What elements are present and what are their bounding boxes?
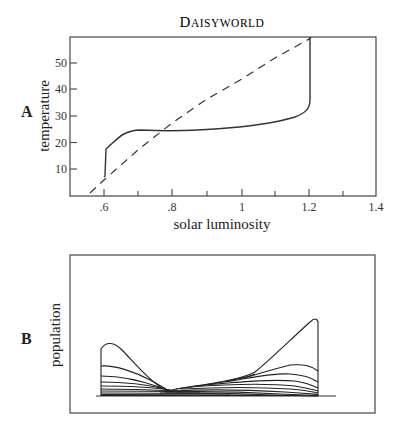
svg-text:.6: .6 — [100, 200, 109, 214]
y-axis-label-temperature: temperature — [36, 80, 52, 152]
svg-text:50: 50 — [55, 56, 67, 70]
plot-frame-a — [70, 37, 376, 196]
y-tick-labels: 10 20 30 40 50 — [55, 56, 67, 176]
svg-text:30: 30 — [55, 109, 67, 123]
panel-b-label: B — [21, 330, 32, 347]
svg-text:20: 20 — [55, 136, 67, 150]
daisyworld-figure: DAISYWORLD A temperature 10 20 30 40 50 — [0, 0, 401, 431]
svg-text:.8: .8 — [168, 200, 177, 214]
population-curves — [101, 319, 318, 396]
panel-b-chart: B population — [21, 255, 375, 413]
y-ticks — [70, 63, 77, 169]
svg-text:1: 1 — [239, 200, 245, 214]
series-bare-planet-dashed — [90, 38, 311, 193]
panel-a-chart: A temperature 10 20 30 40 50 — [21, 37, 384, 232]
svg-text:10: 10 — [55, 162, 67, 176]
x-ticks — [104, 189, 343, 196]
panel-a-label: A — [21, 103, 33, 120]
series-with-daisies-solid — [104, 37, 310, 177]
svg-text:1.2: 1.2 — [302, 200, 317, 214]
svg-text:1.4: 1.4 — [369, 200, 384, 214]
svg-text:40: 40 — [55, 82, 67, 96]
x-axis-label-solar-luminosity: solar luminosity — [173, 216, 271, 232]
figure-title: DAISYWORLD — [180, 14, 265, 30]
y-axis-label-population: population — [47, 302, 63, 367]
x-tick-labels: .6 .8 1 1.2 1.4 — [100, 200, 384, 214]
